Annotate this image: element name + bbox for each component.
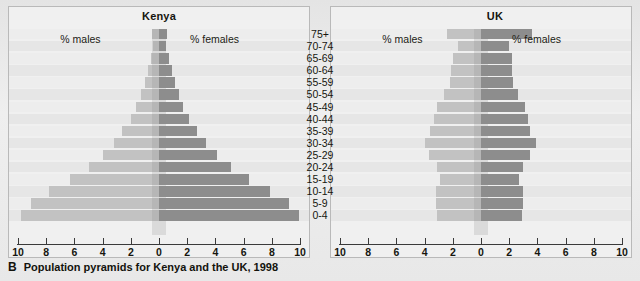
axis-uk: 1086420246810 bbox=[331, 235, 631, 258]
legend-females-kenya: % females bbox=[190, 33, 239, 45]
bar-female bbox=[159, 150, 217, 160]
age-group-label: 20-24 bbox=[292, 161, 348, 173]
axis-tick-label: 4 bbox=[422, 246, 428, 258]
axis-tick-label: 8 bbox=[365, 246, 371, 258]
panel-kenya: Kenya % males % females 1086420246810 bbox=[8, 6, 310, 258]
age-group-label: 0-4 bbox=[292, 209, 348, 221]
axis-tick bbox=[215, 238, 216, 244]
legend-males-uk: % males bbox=[382, 33, 422, 45]
bar-female bbox=[159, 198, 289, 208]
bar-male bbox=[49, 186, 159, 196]
bar-male bbox=[425, 138, 481, 148]
age-group-labels: 75+70-7465-6960-6455-5950-5445-4940-4435… bbox=[292, 28, 348, 222]
age-group-label: 25-29 bbox=[292, 149, 348, 161]
age-group-label: 15-19 bbox=[292, 173, 348, 185]
axis-tick bbox=[46, 238, 47, 244]
axis-line-kenya bbox=[17, 244, 301, 245]
axis-tick bbox=[18, 238, 19, 244]
bar-female bbox=[481, 138, 536, 148]
axis-tick bbox=[340, 238, 341, 244]
axis-tick-label: 6 bbox=[563, 246, 569, 258]
age-group-label: 75+ bbox=[292, 28, 348, 40]
axis-tick bbox=[481, 238, 482, 244]
legend-females-uk: % females bbox=[512, 33, 561, 45]
age-group-label: 45-49 bbox=[292, 101, 348, 113]
axis-tick-label: 10 bbox=[616, 246, 628, 258]
age-group-label: 65-69 bbox=[292, 52, 348, 64]
axis-tick bbox=[537, 238, 538, 244]
axis-tick-label: 6 bbox=[241, 246, 247, 258]
panel-uk: UK % males % females 1086420246810 bbox=[330, 6, 632, 258]
axis-tick bbox=[622, 238, 623, 244]
axis-tick-label: 0 bbox=[478, 246, 484, 258]
axis-tick bbox=[272, 238, 273, 244]
axis-tick bbox=[159, 238, 160, 244]
age-group-label: 40-44 bbox=[292, 113, 348, 125]
age-group-label: 60-64 bbox=[292, 64, 348, 76]
axis-tick-label: 4 bbox=[534, 246, 540, 258]
caption-text: Population pyramids for Kenya and the UK… bbox=[24, 261, 278, 273]
bar-male bbox=[103, 150, 159, 160]
axis-tick-label: 6 bbox=[393, 246, 399, 258]
figure-caption: B Population pyramids for Kenya and the … bbox=[8, 260, 278, 274]
age-group-label: 35-39 bbox=[292, 125, 348, 137]
panel-title-uk: UK bbox=[345, 10, 632, 22]
bar-female bbox=[159, 174, 249, 184]
axis-tick bbox=[131, 238, 132, 244]
axis-tick-label: 8 bbox=[591, 246, 597, 258]
axis-tick-label: 2 bbox=[128, 246, 134, 258]
bar-female bbox=[159, 210, 299, 220]
panel-title-kenya: Kenya bbox=[9, 10, 309, 22]
axis-tick-label: 8 bbox=[43, 246, 49, 258]
axis-tick-label: 4 bbox=[212, 246, 218, 258]
age-group-label: 10-14 bbox=[292, 185, 348, 197]
axis-tick bbox=[396, 238, 397, 244]
figure-population-pyramids: Kenya % males % females 1086420246810 UK… bbox=[0, 0, 640, 281]
axis-tick bbox=[509, 238, 510, 244]
axis-tick-label: 10 bbox=[12, 246, 24, 258]
center-band-uk bbox=[474, 29, 488, 235]
axis-tick bbox=[368, 238, 369, 244]
axis-tick bbox=[103, 238, 104, 244]
caption-tag: B bbox=[8, 260, 17, 274]
axis-line-uk bbox=[339, 244, 623, 245]
bar-male bbox=[70, 174, 159, 184]
axis-tick-label: 0 bbox=[156, 246, 162, 258]
bar-male bbox=[31, 198, 159, 208]
bar-female bbox=[481, 126, 530, 136]
axis-tick-label: 2 bbox=[450, 246, 456, 258]
legend-males-kenya: % males bbox=[60, 33, 100, 45]
age-group-label: 5-9 bbox=[292, 197, 348, 209]
age-group-label: 50-54 bbox=[292, 88, 348, 100]
bar-male bbox=[89, 162, 160, 172]
age-group-label: 30-34 bbox=[292, 137, 348, 149]
age-group-label: 55-59 bbox=[292, 76, 348, 88]
axis-kenya: 1086420246810 bbox=[9, 235, 309, 258]
axis-tick-label: 6 bbox=[71, 246, 77, 258]
axis-tick bbox=[74, 238, 75, 244]
bar-female bbox=[159, 186, 270, 196]
bar-male bbox=[21, 210, 159, 220]
axis-tick-label: 8 bbox=[269, 246, 275, 258]
bar-female bbox=[159, 162, 231, 172]
axis-tick bbox=[425, 238, 426, 244]
axis-tick bbox=[300, 238, 301, 244]
axis-tick-label: 2 bbox=[506, 246, 512, 258]
bar-female bbox=[481, 150, 530, 160]
axis-tick bbox=[566, 238, 567, 244]
axis-tick-label: 10 bbox=[294, 246, 306, 258]
axis-tick-label: 10 bbox=[334, 246, 346, 258]
axis-tick-label: 4 bbox=[100, 246, 106, 258]
axis-tick bbox=[244, 238, 245, 244]
age-group-label: 70-74 bbox=[292, 40, 348, 52]
center-band-kenya bbox=[152, 29, 166, 235]
axis-tick-label: 2 bbox=[184, 246, 190, 258]
axis-tick bbox=[594, 238, 595, 244]
axis-tick bbox=[187, 238, 188, 244]
axis-tick bbox=[453, 238, 454, 244]
